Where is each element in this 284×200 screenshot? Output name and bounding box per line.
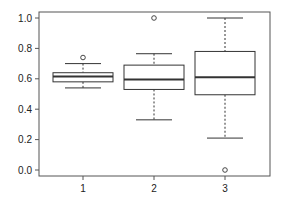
x-tick-label: 3: [222, 183, 228, 194]
y-tick-label: 0.2: [18, 134, 32, 145]
box-1: [53, 55, 113, 88]
y-tick-label: 1.0: [18, 13, 32, 24]
outlier-point: [223, 168, 228, 173]
x-axis: 123: [80, 176, 228, 194]
y-tick-label: 0.0: [18, 165, 32, 176]
iqr-box: [195, 51, 255, 94]
outlier-point: [152, 16, 157, 21]
y-axis: 0.00.20.40.60.81.0: [18, 13, 39, 176]
iqr-box: [124, 65, 184, 89]
boxplot-chart: 0.00.20.40.60.81.0 123: [0, 0, 284, 200]
outlier-point: [81, 55, 86, 60]
boxes: [53, 16, 255, 173]
y-tick-label: 0.6: [18, 73, 32, 84]
y-tick-label: 0.8: [18, 43, 32, 54]
x-tick-label: 1: [80, 183, 86, 194]
box-2: [124, 16, 184, 120]
x-tick-label: 2: [151, 183, 157, 194]
box-3: [195, 18, 255, 172]
y-tick-label: 0.4: [18, 104, 32, 115]
